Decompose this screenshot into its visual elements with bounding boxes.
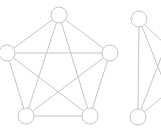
graph-edge	[65, 20, 103, 48]
graph-edge	[61, 23, 87, 109]
graph-edge	[13, 20, 52, 49]
graph-node	[82, 108, 98, 124]
graph-edge	[32, 58, 103, 111]
diagram-canvas	[0, 0, 161, 133]
graph-edge	[28, 23, 56, 109]
graph-node	[102, 45, 118, 61]
edges-layer	[9, 20, 161, 116]
graph-edge	[92, 61, 107, 109]
graph-edge	[145, 25, 161, 45]
graph-node	[0, 45, 15, 61]
graph-node	[131, 11, 147, 27]
graph-node	[130, 109, 146, 125]
graph-node	[51, 7, 67, 23]
graph-node	[18, 108, 34, 124]
graph-svg	[0, 0, 161, 133]
graph-edge	[138, 27, 139, 109]
graph-edge	[9, 61, 23, 109]
nodes-layer	[0, 7, 147, 125]
graph-edge	[13, 58, 83, 111]
